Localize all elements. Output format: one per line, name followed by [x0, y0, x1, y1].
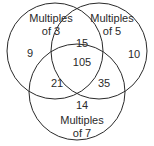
venn-diagram: Multiples of 3 Multiples of 5 Multiples …: [0, 0, 154, 146]
label-set-3-line2: of 3: [42, 25, 60, 37]
label-set-7-line2: of 7: [73, 127, 91, 139]
label-set-5-line2: of 5: [103, 25, 121, 37]
region-5-and-7: 35: [98, 77, 110, 89]
region-only-3: 9: [27, 47, 33, 59]
region-only-5: 10: [128, 48, 140, 60]
label-set-3-line1: Multiples: [29, 12, 73, 24]
label-set-7-line1: Multiples: [60, 114, 104, 126]
region-3-and-5: 15: [76, 37, 88, 49]
label-set-5-line1: Multiples: [90, 12, 134, 24]
region-only-7: 14: [76, 99, 88, 111]
region-3-and-7: 21: [51, 77, 63, 89]
region-all: 105: [73, 56, 91, 68]
